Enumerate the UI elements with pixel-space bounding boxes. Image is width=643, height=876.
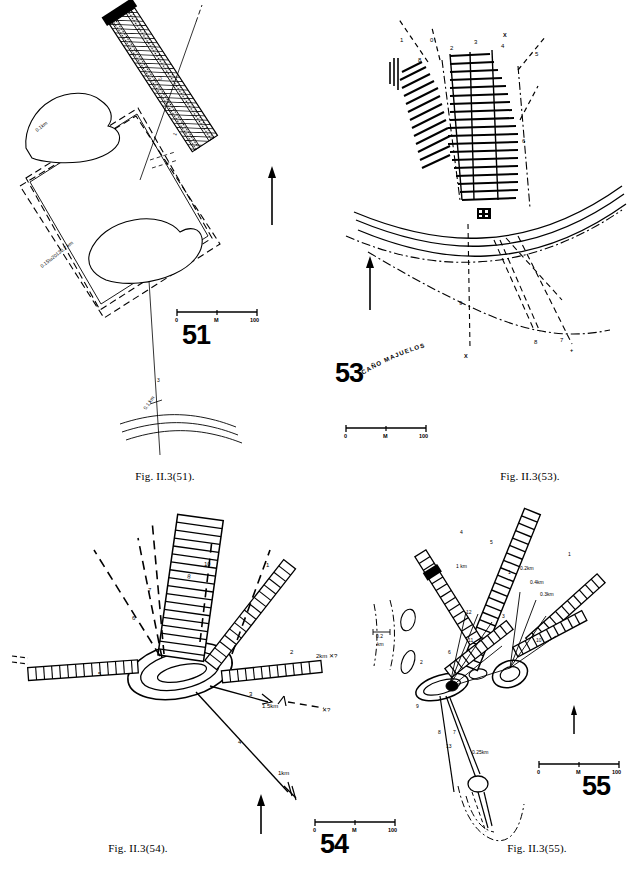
scale-bar-53: 0 M 100 <box>344 424 428 438</box>
section-line-x <box>468 224 470 348</box>
lower-node-tail <box>478 792 492 828</box>
scale-label-right: 100 <box>612 769 621 775</box>
label-route-3: 3 <box>157 377 160 383</box>
label-spoke-2: 2 <box>420 659 423 665</box>
scale-label-left: 0 <box>537 769 540 775</box>
panel-number-54: 54 <box>320 829 348 860</box>
label-spoke-12: 12 <box>466 609 472 615</box>
panel-54: 8 1 <box>0 496 360 876</box>
label-route-6: 6 <box>522 138 526 144</box>
label-spoke-5: 5 <box>490 539 493 545</box>
scale-label-mid: M <box>576 769 581 775</box>
panel-51-drawing: 1 3 0.1 km <box>0 0 322 460</box>
panel-54-drawing: 8 1 <box>0 496 360 876</box>
label-route-1: 1 <box>171 131 178 136</box>
panel-number-53: 53 <box>335 358 363 389</box>
label-spoke-4-dist: 1km <box>278 770 289 776</box>
label-route-3: 3 <box>474 39 478 45</box>
river-channel <box>120 415 242 443</box>
figure-plate: 1 3 0.1 km <box>0 0 643 876</box>
settlement-cluster <box>477 208 491 219</box>
label-dist-right-b: 0.4km <box>530 579 544 585</box>
hub-west-oval <box>413 668 472 706</box>
radial-band-1 <box>205 560 296 670</box>
label-spoke-14: 1 <box>568 551 571 557</box>
label-dist-left-unit: km <box>377 641 384 647</box>
scale-label-mid: M <box>352 827 357 833</box>
label-spoke-2-dist: 2km ✕? <box>316 653 338 659</box>
label-route-0: 0 <box>430 37 434 43</box>
label-route-x-top: X <box>503 32 507 38</box>
label-spoke-8: 8 <box>438 729 441 735</box>
label-spoke-4: 4 <box>460 529 463 535</box>
panel-55: 0.2 km <box>360 496 643 876</box>
north-arrow <box>571 705 577 734</box>
label-spoke-3-dist: 1.5km <box>262 703 278 709</box>
label-route-1: 1 <box>400 37 404 43</box>
plain-spoke-4 <box>196 692 296 800</box>
panel-55-drawing: 0.2 km <box>360 496 643 876</box>
radial-band-2 <box>221 660 322 682</box>
label-spoke-11: 11 <box>468 637 473 643</box>
label-route-7: 7 <box>560 337 564 343</box>
radial-band-nw <box>413 549 483 646</box>
label-spoke-9: 9 <box>416 703 419 709</box>
panel-caption-54: Fig. II.3(54). <box>78 842 198 854</box>
panel-number-51: 51 <box>182 320 210 351</box>
label-route-2: 2 <box>450 45 454 51</box>
hatched-causeway: 2 <box>102 0 220 153</box>
label-spoke-3: 3 <box>249 691 253 697</box>
scale-label-left: 0 <box>344 433 347 439</box>
label-spoke-10: 10 <box>204 561 211 567</box>
label-spoke-3-query: ✕? <box>322 707 331 713</box>
field-block-diagonal <box>390 58 450 168</box>
label-cross-marker: + <box>570 347 573 353</box>
route-3-extension <box>288 702 324 708</box>
scale-label-mid: M <box>214 317 219 323</box>
label-route-8-lower: 8 <box>534 339 538 345</box>
lagoon-south <box>89 219 202 284</box>
label-spoke-2: 2 <box>290 649 294 655</box>
label-spoke-13: 13 <box>446 743 452 749</box>
label-spoke-3: 3 <box>502 613 505 619</box>
route-line-3: 3 0.1 km <box>142 265 162 455</box>
north-arrow <box>257 794 265 834</box>
route-5-extension <box>12 656 28 664</box>
panel-caption-53: Fig. II.3(53). <box>470 470 590 482</box>
label-spoke-7: 7 <box>148 587 152 593</box>
scale-label-left: 0 <box>175 317 178 323</box>
label-route-x-bottom: X <box>464 353 468 359</box>
label-dist-right-a: 0.2km <box>520 565 534 571</box>
lower-node <box>468 776 488 792</box>
panel-53: 1 0 8 2 3 X 4 5 6 X <box>322 0 643 460</box>
place-name-cano-majuelos: CAÑO MAJUELOS <box>360 341 426 375</box>
panel-caption-51: Fig. II.3(51). <box>105 470 225 482</box>
radial-band-8: 8 <box>158 514 223 661</box>
north-arrow <box>366 256 374 310</box>
label-spoke-1: 1 <box>508 569 511 575</box>
panel-53-drawing: 1 0 8 2 3 X 4 5 6 X <box>322 0 643 460</box>
panel-caption-55: Fig. II.3(55). <box>477 842 597 854</box>
label-route-4: 4 <box>501 43 505 49</box>
lower-contours <box>458 786 524 841</box>
label-route-5: 5 <box>535 51 539 57</box>
label-dist-left: 0.2 <box>376 633 383 639</box>
label-dist-upper: 1 km <box>456 563 467 569</box>
label-spoke-7: 7 <box>453 729 456 735</box>
hub-east-oval <box>489 656 532 693</box>
panel-51: 1 3 0.1 km <box>0 0 322 460</box>
field-block-hatched <box>448 50 518 200</box>
label-dist-right-c: 0.3km <box>540 591 554 597</box>
label-dist-lower: 0.25km <box>472 749 488 755</box>
scale-label-right: 100 <box>419 433 428 439</box>
radial-band-5 <box>28 660 139 681</box>
scale-label-left: 0 <box>313 827 316 833</box>
label-spoke-6: 6 <box>448 649 451 655</box>
scale-label-right: 100 <box>250 317 259 323</box>
dash-dot-track <box>346 210 622 334</box>
stream-channel <box>354 186 626 256</box>
north-arrow <box>268 166 276 225</box>
label-spoke-1: 1 <box>266 562 270 568</box>
panel-number-55: 55 <box>582 771 610 802</box>
label-spoke-10: 10 <box>536 637 542 643</box>
